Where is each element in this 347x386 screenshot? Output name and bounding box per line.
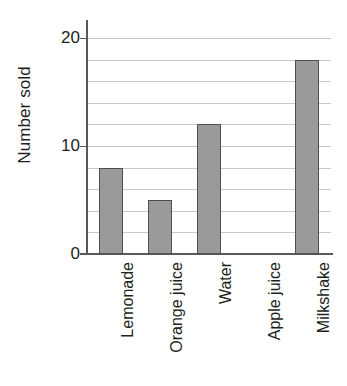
bar-milkshake: [295, 60, 319, 254]
x-axis-label-water: Water: [217, 262, 235, 304]
bar-lemonade: [99, 168, 123, 254]
x-axis-label-apple-juice: Apple juice: [266, 262, 284, 340]
y-tick-mark-20: [80, 38, 87, 39]
x-axis-label-orange-juice: Orange juice: [168, 262, 186, 353]
y-tick-mark-0: [80, 254, 87, 255]
y-tick-label-20: 20: [34, 29, 80, 46]
y-tick-label-0: 0: [34, 245, 80, 262]
bar-orange-juice: [148, 200, 172, 254]
x-axis-label-lemonade: Lemonade: [119, 262, 137, 338]
y-tick-label-10: 10: [34, 137, 80, 154]
gridline-20: [87, 38, 331, 39]
y-axis-line: [86, 20, 88, 255]
bar-chart: Number sold 0 10 20 LemonadeOrange juice…: [0, 0, 347, 386]
x-axis-label-milkshake: Milkshake: [315, 262, 333, 333]
y-axis-tick-labels: 0 10 20: [28, 0, 80, 386]
y-tick-mark-10: [80, 146, 87, 147]
bar-water: [197, 124, 221, 254]
